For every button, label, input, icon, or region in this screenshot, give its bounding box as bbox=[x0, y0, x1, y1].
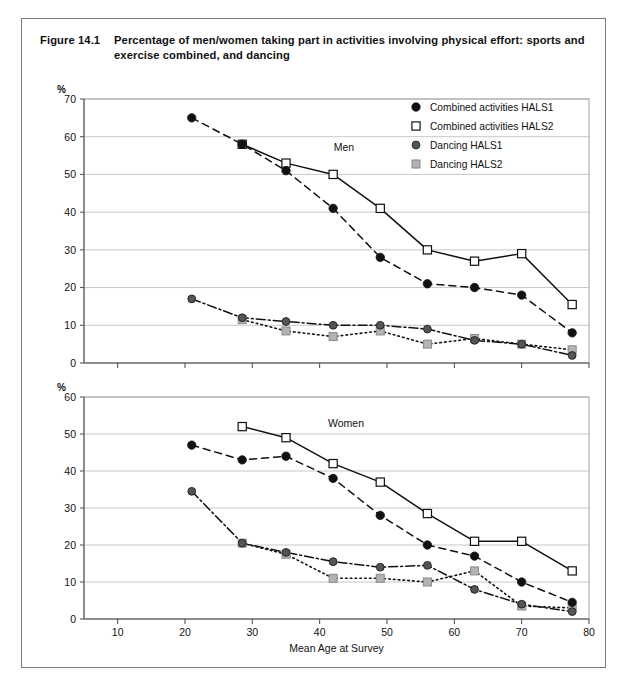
y-tick-label: 20 bbox=[64, 281, 76, 293]
legend-label-0: Combined activities HALS1 bbox=[430, 102, 554, 113]
series-line-1 bbox=[242, 144, 572, 304]
series-line-2 bbox=[192, 491, 572, 611]
data-point-dancing-hals2 bbox=[423, 340, 431, 348]
data-point-dancing-hals1 bbox=[238, 539, 246, 547]
data-point-combined-hals1 bbox=[188, 441, 196, 449]
x-tick-label: 10 bbox=[112, 626, 124, 638]
data-point-combined-hals1 bbox=[423, 541, 431, 549]
figure-number: Figure 14.1 bbox=[40, 33, 114, 48]
series-markers-1 bbox=[238, 140, 576, 308]
data-point-combined-hals2 bbox=[423, 509, 431, 517]
y-tick-label: 0 bbox=[70, 357, 76, 369]
y-tick-label: 10 bbox=[64, 319, 76, 331]
legend-label-2: Dancing HALS1 bbox=[430, 140, 503, 151]
data-point-combined-hals1 bbox=[188, 114, 196, 122]
data-point-combined-hals2 bbox=[329, 460, 337, 468]
data-point-combined-hals2 bbox=[282, 159, 290, 167]
data-point-dancing-hals1 bbox=[282, 318, 290, 326]
y-tick-label: 30 bbox=[64, 244, 76, 256]
data-point-dancing-hals1 bbox=[568, 352, 576, 360]
data-point-dancing-hals1 bbox=[376, 321, 384, 329]
chart-panel-women: %01020304050601020304050607080Mean Age a… bbox=[22, 371, 607, 669]
x-tick-label: 50 bbox=[381, 626, 393, 638]
data-point-combined-hals2 bbox=[568, 567, 576, 575]
data-point-dancing-hals1 bbox=[568, 608, 576, 616]
x-tick-label: 80 bbox=[583, 626, 595, 638]
y-tick-label: 0 bbox=[70, 613, 76, 625]
y-tick-label: 60 bbox=[64, 131, 76, 143]
data-point-combined-hals1 bbox=[470, 552, 478, 560]
legend-label-3: Dancing HALS2 bbox=[430, 159, 503, 170]
data-point-combined-hals1 bbox=[568, 598, 576, 606]
data-point-combined-hals1 bbox=[238, 456, 246, 464]
data-point-combined-hals1 bbox=[376, 511, 384, 519]
y-tick-label: 40 bbox=[64, 206, 76, 218]
y-tick-label: 50 bbox=[64, 428, 76, 440]
series-markers-2 bbox=[188, 295, 576, 359]
y-tick-label: 50 bbox=[64, 168, 76, 180]
y-tick-label: 70 bbox=[64, 93, 76, 105]
data-point-dancing-hals1 bbox=[518, 340, 526, 348]
data-point-combined-hals1 bbox=[282, 452, 290, 460]
data-point-combined-hals1 bbox=[423, 280, 431, 288]
y-tick-label: 30 bbox=[64, 502, 76, 514]
data-point-combined-hals1 bbox=[412, 103, 420, 111]
y-tick-label: 40 bbox=[64, 465, 76, 477]
data-point-combined-hals2 bbox=[423, 246, 431, 254]
panel-annotation-women: Women bbox=[328, 417, 364, 429]
series-line-1 bbox=[242, 427, 572, 571]
data-point-combined-hals1 bbox=[517, 578, 525, 586]
y-tick-label: 20 bbox=[64, 539, 76, 551]
data-point-dancing-hals1 bbox=[412, 141, 420, 149]
figure-frame: Figure 14.1 Percentage of men/women taki… bbox=[21, 18, 606, 668]
data-point-combined-hals2 bbox=[518, 250, 526, 258]
data-point-dancing-hals1 bbox=[238, 314, 246, 322]
data-point-combined-hals2 bbox=[412, 122, 420, 130]
data-point-combined-hals1 bbox=[238, 140, 246, 148]
x-tick-label: 30 bbox=[246, 626, 258, 638]
series-line-0 bbox=[192, 118, 572, 333]
y-tick-label: 60 bbox=[64, 391, 76, 403]
data-point-dancing-hals2 bbox=[282, 327, 290, 335]
data-point-dancing-hals1 bbox=[424, 561, 432, 569]
data-point-dancing-hals1 bbox=[188, 295, 196, 303]
legend-label-1: Combined activities HALS2 bbox=[430, 121, 554, 132]
data-point-combined-hals1 bbox=[517, 291, 525, 299]
chart-svg-men: %010203040506070MenCombined activities H… bbox=[22, 77, 607, 377]
data-point-combined-hals2 bbox=[376, 478, 384, 486]
x-tick-label: 60 bbox=[448, 626, 460, 638]
data-point-combined-hals2 bbox=[470, 257, 478, 265]
data-point-combined-hals2 bbox=[568, 300, 576, 308]
chart-panel-men: %010203040506070MenCombined activities H… bbox=[22, 77, 607, 377]
x-tick-label: 40 bbox=[314, 626, 326, 638]
data-point-combined-hals2 bbox=[518, 537, 526, 545]
data-point-combined-hals1 bbox=[329, 474, 337, 482]
figure-title-block: Figure 14.1 Percentage of men/women taki… bbox=[40, 33, 588, 63]
data-point-dancing-hals2 bbox=[376, 574, 384, 582]
data-point-dancing-hals1 bbox=[518, 600, 526, 608]
y-tick-label: 10 bbox=[64, 576, 76, 588]
data-point-dancing-hals1 bbox=[329, 321, 337, 329]
data-point-dancing-hals1 bbox=[376, 563, 384, 571]
data-point-dancing-hals1 bbox=[471, 336, 479, 344]
data-point-dancing-hals2 bbox=[329, 333, 337, 341]
data-point-dancing-hals2 bbox=[329, 574, 337, 582]
figure-caption: Percentage of men/women taking part in a… bbox=[114, 33, 588, 63]
data-point-dancing-hals1 bbox=[282, 549, 290, 557]
data-point-dancing-hals1 bbox=[471, 586, 479, 594]
series-markers-2 bbox=[188, 487, 576, 615]
data-point-dancing-hals2 bbox=[423, 578, 431, 586]
x-tick-label: 70 bbox=[516, 626, 528, 638]
data-point-dancing-hals1 bbox=[424, 325, 432, 333]
data-point-combined-hals2 bbox=[282, 434, 290, 442]
x-axis-title: Mean Age at Survey bbox=[289, 642, 384, 654]
data-point-dancing-hals1 bbox=[329, 558, 337, 566]
data-point-combined-hals1 bbox=[568, 329, 576, 337]
data-point-combined-hals2 bbox=[470, 537, 478, 545]
data-point-dancing-hals2 bbox=[412, 160, 420, 168]
data-point-combined-hals2 bbox=[329, 170, 337, 178]
data-point-combined-hals2 bbox=[238, 423, 246, 431]
data-point-combined-hals1 bbox=[376, 253, 384, 261]
data-point-combined-hals1 bbox=[282, 166, 290, 174]
data-point-dancing-hals2 bbox=[471, 567, 479, 575]
